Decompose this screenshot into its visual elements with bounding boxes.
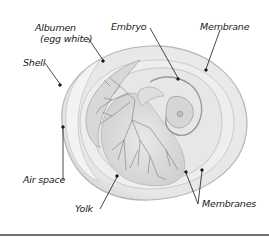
label-albumen: Albumen [35, 22, 76, 33]
egg-anatomy-diagram: Albumen (egg white) Embryo Membrane Shel… [0, 0, 269, 238]
bottom-divider [0, 234, 269, 236]
label-embryo: Embryo [111, 21, 146, 32]
label-shell: Shell [23, 57, 45, 68]
label-air-space: Air space [23, 174, 65, 185]
leader-shell [45, 63, 60, 84]
label-membrane: Membrane [200, 21, 249, 32]
label-membranes: Membranes [202, 198, 256, 209]
label-egg-white: (egg white) [40, 33, 92, 44]
label-yolk: Yolk [75, 203, 93, 214]
